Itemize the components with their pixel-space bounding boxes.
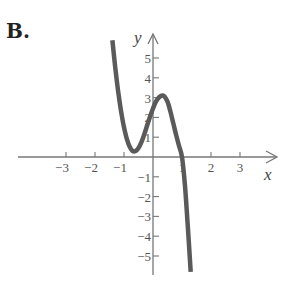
y-tick-label: −4 [137,229,151,244]
y-tick-label: −5 [137,249,151,264]
y-tick-label: −3 [137,209,151,224]
y-tick-label: −2 [137,190,151,205]
y-tick-label: −1 [137,170,151,185]
y-tick-label: 5 [145,51,152,66]
y-axis-label: y [132,28,142,47]
x-axis-label: x [263,165,272,184]
x-tick-label: −2 [84,160,98,175]
figure-label: B. [6,19,30,43]
x-tick-label: −3 [55,160,69,175]
x-tick-label: 3 [237,160,244,175]
x-tick-label: −1 [113,160,127,175]
x-tick-label: 2 [208,160,215,175]
y-tick-label: 3 [145,91,152,106]
y-tick-label: 4 [145,71,152,86]
cubic-function-graph: B. x y −3−2−1123 54321−1−2−3−4−5 [0,0,299,300]
